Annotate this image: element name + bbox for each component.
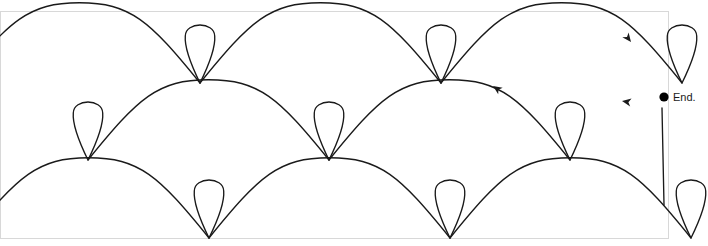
arrow-right-lower-glyph xyxy=(621,97,631,106)
row-bottom-loop-2 xyxy=(435,180,465,238)
row-middle-loop-2 xyxy=(555,102,585,160)
row-middle-arc-1 xyxy=(329,80,570,160)
row-bottom-loop-1 xyxy=(194,180,224,238)
row-bottom-arc-2 xyxy=(450,158,691,238)
curve-figure: End. xyxy=(0,0,708,246)
vertical-return-line xyxy=(662,108,664,205)
row-middle-arc-0 xyxy=(88,80,329,160)
end-label: End. xyxy=(673,91,696,103)
row-bottom-arc-1 xyxy=(209,158,450,238)
arrow-middle-glyph xyxy=(491,83,503,95)
row-bottom-arc-0 xyxy=(0,158,209,238)
row-top-loop-2 xyxy=(426,25,456,83)
end-point-dot xyxy=(659,92,668,101)
arrow-right-lower xyxy=(621,97,631,106)
row-top-loop-3 xyxy=(667,25,697,83)
figure-frame xyxy=(1,12,669,239)
row-middle-loop-1 xyxy=(314,102,344,160)
curve-layer xyxy=(0,3,706,238)
row-top-loop-1 xyxy=(185,25,215,83)
arrow-top-right-glyph xyxy=(622,32,634,44)
marker-layer: End. xyxy=(491,32,696,106)
row-bottom-loop-3 xyxy=(676,180,706,238)
row-top-arc-2 xyxy=(441,3,682,83)
row-middle-loop-0 xyxy=(73,102,103,160)
figure-canvas: End. xyxy=(0,0,708,246)
arrow-top-right xyxy=(622,32,634,44)
arrow-middle xyxy=(491,83,503,95)
row-top-arc-0 xyxy=(0,3,200,83)
row-top-arc-1 xyxy=(200,3,441,83)
